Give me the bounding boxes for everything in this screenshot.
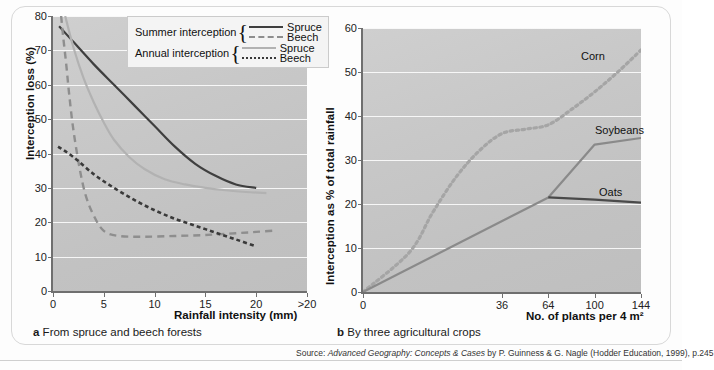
x-tick-mark <box>53 293 54 297</box>
x-tick-mark <box>595 294 596 298</box>
figure-source-line: Source: Advanced Geography: Concepts & C… <box>296 348 714 358</box>
panel-b-y-axis-label: Interception as % of total rainfall <box>324 107 336 285</box>
legend-swatch-solid-dark <box>249 26 283 28</box>
legend-entry-label: Beech <box>280 52 311 64</box>
y-tick-mark <box>358 248 362 249</box>
y-tick-mark <box>358 72 362 73</box>
y-tick-mark <box>48 222 52 223</box>
panel-b-label-oats: Oats <box>599 186 622 198</box>
panel-b-caption-text: By three agricultural crops <box>347 326 481 338</box>
x-tick-mark <box>307 293 308 297</box>
y-tick-label: 60 <box>331 23 357 34</box>
y-tick-label: 10 <box>331 243 357 254</box>
legend-keys: SpruceBeech <box>249 22 322 42</box>
y-tick-label: 20 <box>331 199 357 210</box>
legend-swatch-dash-grey <box>249 36 283 38</box>
panel-b-label-soybeans: Soybeans <box>595 124 644 136</box>
y-tick-mark <box>48 50 52 51</box>
chart-panel-b: Interception as % of total rainfall 0102… <box>341 0 682 340</box>
panel-a-x-axis-line <box>51 291 307 293</box>
legend-group-label: Summer interception <box>135 26 237 38</box>
y-tick-mark <box>48 257 52 258</box>
panel-b-x-axis-label: No. of plants per 4 m² <box>526 310 644 322</box>
x-tick-mark <box>205 293 206 297</box>
y-tick-mark <box>358 160 362 161</box>
figure-bottom-rule <box>0 360 682 361</box>
y-tick-mark <box>358 28 362 29</box>
legend-brace-icon: { <box>230 44 241 62</box>
y-tick-label: 80 <box>21 11 47 22</box>
panel-a-y-axis-label: Interception loss (%) <box>24 47 36 160</box>
y-tick-mark <box>48 291 52 292</box>
panel-b-caption-marker: b <box>337 326 344 338</box>
x-tick-label: 0 <box>343 300 383 311</box>
panel-a-caption-marker: a <box>33 326 39 338</box>
legend-row: Summer interception{SpruceBeech <box>135 21 322 42</box>
legend-key: Beech <box>242 53 315 63</box>
y-tick-label: 30 <box>21 183 47 194</box>
y-tick-mark <box>48 16 52 17</box>
panel-b-label-corn: Corn <box>581 50 605 62</box>
y-tick-mark <box>48 119 52 120</box>
y-tick-label: 60 <box>21 80 47 91</box>
x-tick-mark <box>104 293 105 297</box>
legend-key: Beech <box>249 32 322 42</box>
y-tick-mark <box>358 116 362 117</box>
panel-a-x-axis-label: Rainfall intensity (mm) <box>174 309 297 321</box>
y-tick-label: 70 <box>21 45 47 56</box>
series-line-soybeans <box>363 138 641 292</box>
legend-row: Annual interception{SpruceBeech <box>135 42 322 63</box>
source-prefix: Source: <box>296 348 328 358</box>
panel-a-caption: a From spruce and beech forests <box>33 326 202 338</box>
y-tick-label: 50 <box>331 67 357 78</box>
y-tick-label: 20 <box>21 217 47 228</box>
y-tick-mark <box>358 204 362 205</box>
y-tick-label: 40 <box>331 111 357 122</box>
x-tick-label: 0 <box>33 299 73 310</box>
x-tick-mark <box>155 293 156 297</box>
panel-b-series-lines <box>363 28 641 292</box>
panel-b-caption: b By three agricultural crops <box>337 326 481 338</box>
y-tick-label: 0 <box>21 286 47 297</box>
series-line-oats <box>548 197 641 202</box>
legend-brace-icon: { <box>238 23 249 41</box>
y-tick-mark <box>48 154 52 155</box>
x-tick-label: 5 <box>84 299 124 310</box>
x-tick-label: 10 <box>135 299 175 310</box>
x-tick-mark <box>256 293 257 297</box>
y-tick-mark <box>48 85 52 86</box>
x-tick-mark <box>548 294 549 298</box>
y-tick-label: 50 <box>21 114 47 125</box>
legend-swatch-dot-dark <box>242 57 276 59</box>
series-line-annual-interception-beech <box>58 147 256 247</box>
legend-keys: SpruceBeech <box>242 43 315 63</box>
y-tick-label: 40 <box>21 149 47 160</box>
y-tick-label: 10 <box>21 252 47 263</box>
y-tick-mark <box>48 188 52 189</box>
y-tick-label: 0 <box>331 287 357 298</box>
legend-swatch-solid-light <box>242 47 276 49</box>
chart-panel-a: Interception loss (%) 01020304050607080 … <box>0 0 341 340</box>
y-tick-mark <box>358 292 362 293</box>
panel-a-legend: Summer interception{SpruceBeechAnnual in… <box>127 16 329 68</box>
legend-group-label: Annual interception <box>135 47 229 59</box>
source-rest: by P. Guinness & G. Nagle (Hodder Educat… <box>485 348 714 358</box>
x-tick-mark <box>363 294 364 298</box>
source-title: Advanced Geography: Concepts & Cases <box>328 348 485 358</box>
panel-a-caption-text: From spruce and beech forests <box>43 326 202 338</box>
x-tick-mark <box>502 294 503 298</box>
x-tick-label: 36 <box>482 300 522 311</box>
x-tick-mark <box>641 294 642 298</box>
y-tick-label: 30 <box>331 155 357 166</box>
series-line-corn <box>363 50 641 292</box>
panel-b-x-axis-line <box>361 292 641 294</box>
